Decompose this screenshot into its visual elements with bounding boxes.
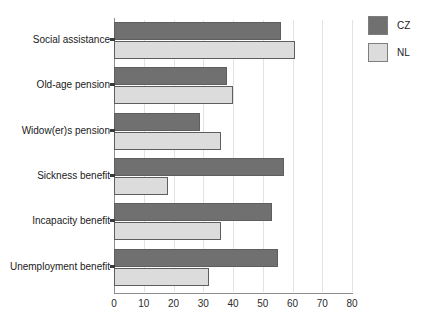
bar-cz-4[interactable] (114, 203, 272, 221)
y-tick-mark-0 (110, 38, 115, 41)
bar-cz-3[interactable] (114, 158, 284, 176)
x-tick-label-40: 40 (227, 297, 238, 310)
plot-area (114, 20, 352, 292)
bar-cz-5[interactable] (114, 249, 278, 267)
x-tick-label-70: 70 (317, 297, 328, 310)
bar-nl-5[interactable] (114, 268, 209, 286)
x-tick-label-60: 60 (287, 297, 298, 310)
y-tick-mark-2 (110, 129, 115, 132)
y-tick-mark-5 (110, 265, 115, 268)
bar-group (114, 201, 352, 246)
x-tick-label-50: 50 (257, 297, 268, 310)
x-tick-label-0: 0 (111, 297, 117, 310)
bar-group (114, 65, 352, 110)
bar-nl-1[interactable] (114, 86, 233, 104)
y-tick-label-1: Old-age pension (0, 79, 110, 90)
bar-cz-2[interactable] (114, 113, 200, 131)
bar-cz-1[interactable] (114, 67, 227, 85)
legend-label-nl: NL (397, 47, 410, 58)
x-axis-line (114, 293, 353, 294)
x-tick-label-20: 20 (168, 297, 179, 310)
bar-chart: Social assistanceOld-age pensionWidow(er… (0, 0, 440, 329)
x-axis-tick-labels: 01020304050607080 (0, 297, 440, 313)
bar-group (114, 156, 352, 201)
y-tick-label-5: Unemployment benefit (0, 261, 110, 272)
x-tick-label-80: 80 (346, 297, 357, 310)
y-tick-label-2: Widow(er)s pension (0, 125, 110, 136)
y-tick-label-4: Incapacity benefit (0, 215, 110, 226)
chart-legend: CZ NL (368, 16, 434, 70)
x-tick-label-30: 30 (198, 297, 209, 310)
bar-group (114, 20, 352, 65)
y-tick-mark-3 (110, 174, 115, 177)
bar-cz-0[interactable] (114, 22, 281, 40)
bar-nl-0[interactable] (114, 41, 295, 59)
y-tick-mark-4 (110, 219, 115, 222)
legend-item-cz[interactable]: CZ (368, 16, 434, 35)
y-tick-label-0: Social assistance (0, 34, 110, 45)
bar-nl-2[interactable] (114, 132, 221, 150)
bar-group (114, 111, 352, 156)
legend-swatch-cz-icon (368, 16, 388, 35)
legend-item-nl[interactable]: NL (368, 43, 434, 62)
x-tick-label-10: 10 (138, 297, 149, 310)
y-axis-category-labels: Social assistanceOld-age pensionWidow(er… (0, 20, 110, 292)
legend-swatch-nl-icon (368, 43, 388, 62)
bar-nl-3[interactable] (114, 177, 168, 195)
bar-group (114, 247, 352, 292)
gridline-80 (352, 20, 353, 292)
bar-nl-4[interactable] (114, 222, 221, 240)
y-tick-label-3: Sickness benefit (0, 170, 110, 181)
legend-label-cz: CZ (397, 20, 410, 31)
y-tick-mark-1 (110, 83, 115, 86)
